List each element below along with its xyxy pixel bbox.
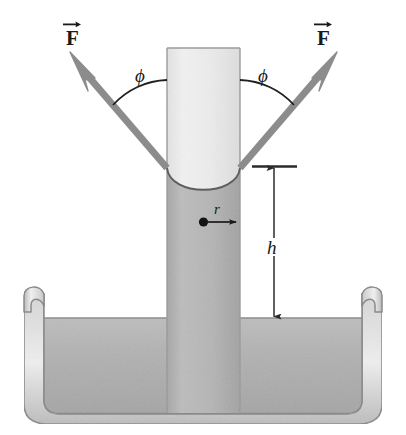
force-vector-left-shaft <box>88 76 167 168</box>
phi-arc-right <box>240 80 294 105</box>
force-vector-left <box>70 52 167 168</box>
diagram-canvas <box>0 0 406 435</box>
force-vector-right-shaft <box>240 76 319 168</box>
capillary-diagram: F F ϕ ϕ h r <box>0 0 406 435</box>
tube-air-space <box>167 48 240 189</box>
tube-liquid-column <box>167 168 240 413</box>
phi-arc-left <box>113 80 167 105</box>
force-vector-right <box>240 52 337 168</box>
capillary-tube <box>167 48 240 413</box>
